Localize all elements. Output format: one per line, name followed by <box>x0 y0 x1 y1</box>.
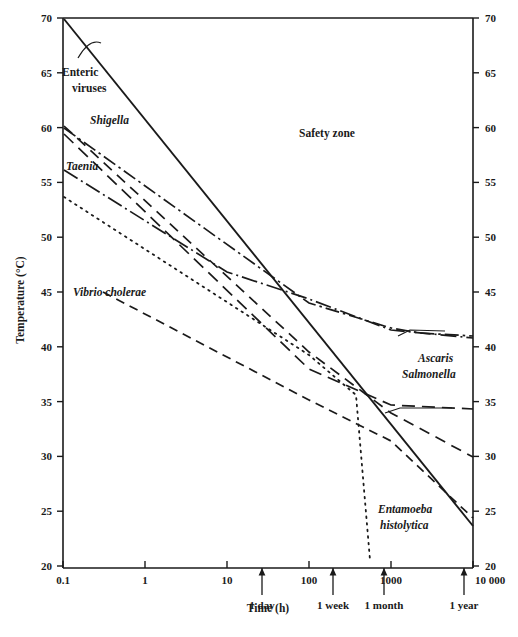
time-marker-label: 1 year <box>449 599 478 611</box>
y-tick-label: 55 <box>41 176 53 188</box>
y-tick-label-right: 20 <box>485 560 497 572</box>
chart-figure: 70 65 60 55 50 45 40 35 30 25 20 70 65 6… <box>0 0 518 637</box>
x-tick-label: 100 <box>301 574 318 586</box>
series-label-taenia: Taenia <box>66 160 98 172</box>
y-tick-label-right: 65 <box>485 67 497 79</box>
y-tick-label: 70 <box>41 12 53 24</box>
series-label-salmonella: Salmonella <box>402 368 456 380</box>
time-marker-1-day: 1 day <box>249 568 275 611</box>
curve-entamoeba-histolytica <box>64 197 370 560</box>
curve-enteric-viruses <box>64 19 473 526</box>
series-label-entamoeba-line1: Entamoeba <box>377 503 433 515</box>
time-marker-label: 1 month <box>365 599 404 611</box>
time-marker-label: 1 day <box>249 599 275 611</box>
curve-vibrio-cholerae <box>103 292 473 518</box>
y-tick-label-right: 45 <box>485 286 497 298</box>
y-tick-label: 45 <box>41 286 53 298</box>
y-tick-label: 50 <box>41 231 53 243</box>
arrowhead-icon <box>381 568 388 576</box>
y-tick-label-right: 55 <box>485 176 497 188</box>
y-tick-label-right: 35 <box>485 396 497 408</box>
y-tick-label: 25 <box>41 505 53 517</box>
y-tick-label: 40 <box>41 341 53 353</box>
x-tick-label: 10 <box>222 574 234 586</box>
y-tick-label: 20 <box>41 560 53 572</box>
y-tick-label-right: 50 <box>485 231 497 243</box>
curve-ascaris <box>64 128 473 336</box>
time-marker-label: 1 week <box>317 599 350 611</box>
y-tick-label-right: 40 <box>485 341 497 353</box>
series-label-enteric-viruses-line1: Enteric <box>62 66 98 78</box>
x-tick-label: 1 <box>142 574 148 586</box>
series-label-enteric-viruses-line2: viruses <box>72 82 107 94</box>
series-label-entamoeba-line2: histolytica <box>380 519 429 532</box>
leader-salmonella <box>385 408 452 413</box>
y-axis-ticks-right <box>473 18 479 566</box>
arrowhead-icon <box>461 568 468 576</box>
y-tick-label: 30 <box>41 450 53 462</box>
x-tick-label: 10 000 <box>475 574 506 586</box>
arrowhead-icon <box>330 568 337 576</box>
y-tick-label-right: 25 <box>485 505 497 517</box>
x-axis-ticks <box>63 561 473 568</box>
chart-svg: 70 65 60 55 50 45 40 35 30 25 20 70 65 6… <box>0 0 518 637</box>
y-tick-label-right: 70 <box>485 12 497 24</box>
x-axis-tick-labels: 0.1 1 10 100 1000 10 000 <box>56 574 506 586</box>
y-axis-ticks-left <box>57 18 63 566</box>
y-axis-title: Temperature (°C) <box>14 256 27 343</box>
arrowhead-icon <box>259 568 266 576</box>
y-tick-label: 65 <box>41 67 53 79</box>
y-tick-label: 60 <box>41 122 53 134</box>
series-label-shigella: Shigella <box>90 114 129 127</box>
y-axis-tick-labels-right: 70 65 60 55 50 45 40 35 30 25 20 <box>485 12 497 572</box>
y-tick-label-right: 30 <box>485 450 497 462</box>
y-tick-label: 35 <box>41 396 53 408</box>
x-tick-label: 0.1 <box>56 574 70 586</box>
series-label-ascaris: Ascaris <box>417 352 454 364</box>
time-marker-1-week: 1 week <box>317 568 350 611</box>
y-axis-tick-labels-left: 70 65 60 55 50 45 40 35 30 25 20 <box>41 12 53 572</box>
safety-zone-label: Safety zone <box>299 127 355 140</box>
curve-taenia <box>64 170 473 338</box>
y-tick-label-right: 60 <box>485 122 497 134</box>
series-label-vibrio-cholerae: Vibrio cholerae <box>73 286 146 298</box>
